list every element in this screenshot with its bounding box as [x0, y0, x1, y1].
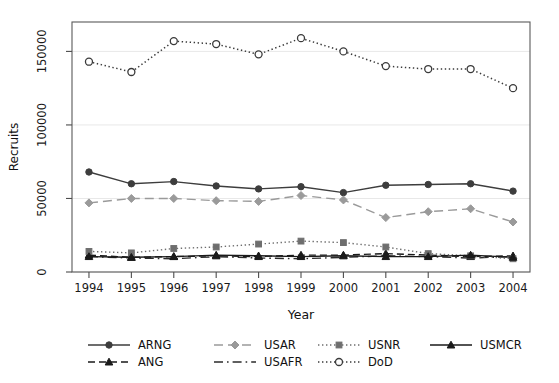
series-point-dod-3 — [213, 41, 220, 48]
series-usar — [85, 192, 517, 226]
x-tick-label-4: 1998 — [244, 281, 273, 295]
series-point-arng-5 — [298, 184, 304, 190]
y-axis: 050000100000150000 — [35, 29, 72, 275]
legend-label-usmcr: USMCR — [480, 338, 522, 352]
legend-label-ang: ANG — [138, 355, 163, 369]
y-axis-title: Recruits — [7, 123, 21, 172]
plot-border — [72, 22, 530, 272]
legend-item-arng[interactable]: ARNG — [88, 338, 171, 352]
y-tick-label-0: 0 — [35, 268, 49, 275]
legend-item-usar[interactable]: USAR — [214, 338, 296, 352]
legend-item-usnr[interactable]: USNR — [318, 338, 400, 352]
series-point-arng-1 — [128, 181, 134, 187]
legend-item-usmcr[interactable]: USMCR — [430, 338, 522, 352]
x-tick-label-7: 2001 — [371, 281, 400, 295]
series-point-usar-1 — [127, 194, 135, 202]
series-dod — [85, 35, 516, 92]
legend-label-usar: USAR — [264, 338, 296, 352]
series-point-arng-10 — [510, 188, 516, 194]
series-point-arng-6 — [340, 189, 346, 195]
y-tick-label-2: 100000 — [35, 103, 49, 147]
chart-container: 050000100000150000 199419951996199719981… — [0, 0, 559, 383]
x-tick-label-5: 1999 — [286, 281, 315, 295]
series-point-arng-2 — [171, 178, 177, 184]
legend-marker-usar — [231, 341, 239, 349]
series-point-arng-4 — [255, 186, 261, 192]
legend-marker-arng — [106, 342, 112, 348]
y-tick-label-1: 50000 — [35, 180, 49, 217]
x-tick-label-6: 2000 — [329, 281, 358, 295]
x-tick-label-8: 2002 — [414, 281, 443, 295]
legend-marker-usnr — [336, 342, 342, 348]
chart-series-layer — [85, 35, 517, 262]
series-point-usar-3 — [212, 197, 220, 205]
series-point-usnr-5 — [298, 238, 304, 244]
series-point-arng-7 — [383, 182, 389, 188]
series-point-arng-3 — [213, 183, 219, 189]
series-point-dod-4 — [255, 51, 262, 58]
legend-item-usafr[interactable]: USAFR — [214, 355, 302, 369]
series-point-dod-10 — [510, 85, 517, 92]
x-tick-label-1: 1995 — [117, 281, 146, 295]
series-point-dod-5 — [298, 35, 305, 42]
legend-item-ang[interactable]: ANG — [88, 355, 163, 369]
recruits-by-year-line-chart: 050000100000150000 199419951996199719981… — [0, 0, 559, 383]
series-point-usnr-2 — [171, 246, 177, 252]
x-axis: 1994199519961997199819992000200120022003… — [74, 272, 527, 295]
legend-label-usafr: USAFR — [264, 355, 302, 369]
x-axis-title: Year — [287, 307, 315, 322]
series-point-usar-6 — [339, 196, 347, 204]
series-point-dod-0 — [85, 58, 92, 65]
chart-plot-frame — [72, 22, 530, 272]
series-point-usar-10 — [509, 218, 517, 226]
series-point-arng-8 — [425, 181, 431, 187]
series-point-usar-2 — [170, 194, 178, 202]
legend-item-dod[interactable]: DoD — [318, 355, 393, 369]
series-point-usnr-3 — [213, 244, 219, 250]
legend-marker-dod — [336, 359, 343, 366]
y-tick-label-3: 150000 — [35, 29, 49, 73]
x-tick-label-10: 2004 — [498, 281, 527, 295]
x-tick-label-0: 1994 — [74, 281, 103, 295]
series-line-dod — [89, 38, 513, 88]
x-tick-label-3: 1997 — [202, 281, 231, 295]
x-tick-label-2: 1996 — [159, 281, 188, 295]
series-point-dod-8 — [425, 66, 432, 73]
series-point-dod-1 — [128, 69, 135, 76]
legend-label-usnr: USNR — [368, 338, 400, 352]
series-point-arng-0 — [86, 169, 92, 175]
series-point-usar-7 — [382, 214, 390, 222]
chart-legend: ARNGUSARUSNRUSMCRANGUSAFRDoD — [88, 338, 522, 369]
x-tick-label-9: 2003 — [456, 281, 485, 295]
series-point-arng-9 — [467, 181, 473, 187]
series-point-usnr-7 — [383, 244, 389, 250]
series-point-dod-2 — [170, 38, 177, 45]
legend-label-dod: DoD — [368, 355, 393, 369]
series-point-usar-0 — [85, 199, 93, 207]
series-point-usar-8 — [424, 208, 432, 216]
series-point-usnr-6 — [341, 240, 347, 246]
series-point-usnr-4 — [256, 241, 262, 247]
series-point-usar-9 — [467, 205, 475, 213]
series-point-dod-9 — [467, 66, 474, 73]
series-point-dod-6 — [340, 48, 347, 55]
series-point-dod-7 — [382, 63, 389, 70]
legend-label-arng: ARNG — [138, 338, 171, 352]
